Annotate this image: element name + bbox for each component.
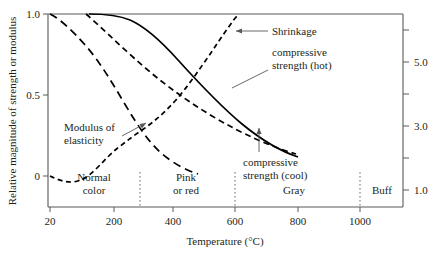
x-axis-title: Temperature (°C) bbox=[186, 235, 264, 248]
annotation-label-modulus-line2: elasticity bbox=[64, 134, 104, 146]
annotation-label-cool-line1: compressive bbox=[243, 156, 298, 168]
xtick-label-200: 200 bbox=[106, 215, 123, 227]
annotation-compressive-strength-hot: compressive strength (hot) bbox=[232, 46, 332, 88]
y2tick-label-1.0: 1.0 bbox=[414, 184, 428, 196]
left-axis-ticks bbox=[43, 14, 48, 176]
xtick-label-800: 800 bbox=[290, 215, 307, 227]
ytick-label-0: 0 bbox=[35, 170, 41, 182]
annotation-modulus-of-elasticity: Modulus of elasticity bbox=[64, 121, 146, 146]
y2tick-label-5.0: 5.0 bbox=[414, 56, 428, 68]
zone-label-normal-line2: color bbox=[83, 184, 106, 196]
ytick-label-1.0: 1.0 bbox=[26, 8, 40, 20]
curve-shrinkage bbox=[50, 15, 238, 182]
zone-label-buff: Buff bbox=[372, 184, 392, 196]
right-axis-ticks bbox=[403, 30, 409, 190]
annotation-shrinkage: Shrinkage bbox=[236, 25, 317, 37]
zone-label-normal-line1: Normal bbox=[77, 171, 111, 183]
y-axis-title: Relative magnitude of strength or modulu… bbox=[6, 17, 18, 206]
cool-arrowhead bbox=[256, 128, 261, 134]
annotation-label-cool-line2: strength (cool) bbox=[243, 169, 308, 182]
annotation-compressive-strength-cool: compressive strength (cool) bbox=[243, 128, 308, 182]
y2tick-label-3.0: 3.0 bbox=[414, 120, 428, 132]
zone-label-pink-line1: Pink bbox=[176, 171, 197, 183]
shrinkage-arrowhead bbox=[236, 28, 242, 33]
annotation-label-shrinkage: Shrinkage bbox=[272, 25, 317, 37]
x-axis-ticks bbox=[50, 207, 360, 212]
annotation-label-hot-line2: strength (hot) bbox=[272, 59, 332, 72]
ytick-label-0.5: 0.5 bbox=[26, 89, 40, 101]
curve-compressive-strength-cool bbox=[86, 14, 296, 154]
xtick-label-1000: 1000 bbox=[349, 215, 372, 227]
chart-figure: 1.0 0.5 0 Relative magnitude of strength… bbox=[0, 0, 438, 255]
xtick-label-20: 20 bbox=[45, 215, 57, 227]
annotation-label-hot-line1: compressive bbox=[272, 46, 327, 58]
annotation-label-modulus-line1: Modulus of bbox=[64, 121, 115, 133]
hot-leader-line bbox=[232, 70, 268, 88]
zone-label-gray: Gray bbox=[283, 184, 305, 196]
curve-modulus-of-elasticity bbox=[50, 14, 198, 174]
curve-compressive-strength-hot bbox=[89, 14, 298, 157]
xtick-label-400: 400 bbox=[165, 215, 182, 227]
chart-canvas: 1.0 0.5 0 Relative magnitude of strength… bbox=[0, 0, 438, 255]
xtick-label-600: 600 bbox=[227, 215, 244, 227]
zone-label-pink-line2: or red bbox=[173, 184, 199, 196]
